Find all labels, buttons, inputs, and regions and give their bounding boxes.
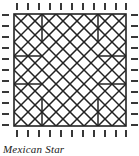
quilt-pattern-diagram <box>0 0 139 156</box>
figure-caption: Mexican Star <box>3 143 139 155</box>
block-interior-lines <box>14 14 126 126</box>
quilt-block-figure: Mexican Star <box>0 0 139 156</box>
